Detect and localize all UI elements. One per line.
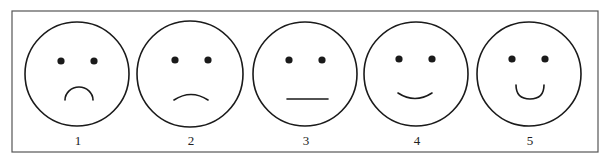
face-number-label: 3 [303, 133, 310, 148]
face-number-label: 1 [75, 133, 82, 148]
left-eye-icon [57, 57, 64, 64]
left-eye-icon [395, 55, 402, 62]
left-eye-icon [171, 56, 178, 63]
face-number-label: 5 [527, 133, 534, 148]
left-eye-icon [508, 55, 515, 62]
face-rating-scale: 12345 [0, 0, 610, 161]
face-number-label: 2 [188, 133, 195, 148]
frame-border [12, 11, 598, 152]
mouth-very-sad [65, 87, 93, 100]
mouth-very-happy [516, 85, 544, 99]
face-outline [253, 22, 357, 126]
right-eye-icon [204, 56, 211, 63]
right-eye-icon [318, 56, 325, 63]
face-very-sad: 1 [25, 22, 129, 148]
left-eye-icon [285, 56, 292, 63]
face-outline [477, 22, 581, 126]
face-outline [25, 22, 129, 126]
face-outline [137, 21, 243, 127]
face-sad: 2 [137, 21, 243, 148]
right-eye-icon [90, 57, 97, 64]
face-neutral: 3 [253, 22, 357, 148]
face-outline [364, 22, 468, 126]
mouth-sad [174, 95, 208, 101]
mouth-happy [398, 93, 432, 99]
face-scale-figure: 12345 [0, 0, 610, 161]
face-happy: 4 [364, 22, 468, 148]
right-eye-icon [541, 55, 548, 62]
face-number-label: 4 [414, 133, 421, 148]
face-very-happy: 5 [477, 22, 581, 148]
right-eye-icon [428, 55, 435, 62]
